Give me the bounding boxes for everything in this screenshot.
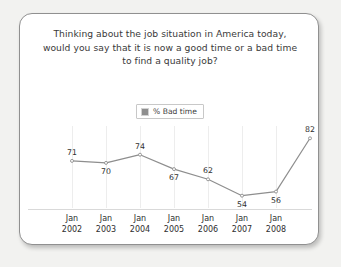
x-tick-5: Jan 2007 [232, 214, 252, 235]
point-label-5: 54 [237, 200, 247, 209]
x-tick-5-year: 2007 [232, 225, 252, 236]
data-point-7 [309, 137, 312, 140]
x-tick-4-year: 2006 [198, 225, 218, 236]
plot-area: 71 70 74 67 62 54 56 82 [32, 126, 308, 208]
x-axis-line [28, 209, 312, 210]
data-point-3 [173, 168, 176, 171]
x-tick-2-year: 2004 [130, 225, 150, 236]
x-tick-1: Jan 2003 [96, 214, 116, 235]
x-tick-3-year: 2005 [164, 225, 184, 236]
x-tick-0-month: Jan [62, 214, 82, 225]
point-label-1: 70 [101, 167, 111, 176]
x-axis-labels: Jan 2002 Jan 2003 Jan 2004 Jan 2005 Jan … [32, 214, 308, 244]
x-tick-0-year: 2002 [62, 225, 82, 236]
data-point-2 [139, 153, 142, 156]
screenshot-root: Thinking about the job situation in Amer… [0, 0, 341, 267]
chart-legend: % Bad time [20, 104, 320, 119]
data-point-4 [207, 178, 210, 181]
point-label-4: 62 [203, 166, 213, 175]
x-tick-6-month: Jan [266, 214, 286, 225]
chart-title-line-2: would you say that it is now a good time… [32, 41, 308, 55]
x-tick-3: Jan 2005 [164, 214, 184, 235]
point-label-2: 74 [135, 142, 145, 151]
data-point-6 [275, 190, 278, 193]
x-tick-6-year: 2008 [266, 225, 286, 236]
legend-swatch-icon [141, 108, 149, 116]
legend-entry-bad-time[interactable]: % Bad time [136, 104, 204, 119]
point-label-0: 71 [67, 148, 77, 157]
chart-title-line-3: to find a quality job? [32, 54, 308, 68]
x-tick-2-month: Jan [130, 214, 150, 225]
x-tick-2: Jan 2004 [130, 214, 150, 235]
data-point-1 [105, 161, 108, 164]
chart-title-line-1: Thinking about the job situation in Amer… [32, 27, 308, 41]
x-tick-1-year: 2003 [96, 225, 116, 236]
x-tick-1-month: Jan [96, 214, 116, 225]
point-label-3: 67 [169, 173, 179, 182]
data-point-0 [71, 159, 74, 162]
point-label-6: 56 [271, 196, 281, 205]
chart-title: Thinking about the job situation in Amer… [32, 27, 308, 68]
x-tick-0: Jan 2002 [62, 214, 82, 235]
point-label-7: 82 [305, 125, 315, 134]
chart-card: Thinking about the job situation in Amer… [19, 13, 319, 245]
x-tick-4-month: Jan [198, 214, 218, 225]
x-tick-3-month: Jan [164, 214, 184, 225]
data-point-5 [241, 194, 244, 197]
x-tick-5-month: Jan [232, 214, 252, 225]
x-tick-4: Jan 2006 [198, 214, 218, 235]
legend-entry-label: % Bad time [153, 107, 197, 116]
x-tick-6: Jan 2008 [266, 214, 286, 235]
series-line-bad-time [32, 126, 308, 208]
